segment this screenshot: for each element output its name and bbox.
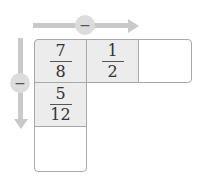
numerator: 7 — [55, 43, 65, 59]
cell-column-2: 5 12 — [34, 82, 87, 127]
minus-operator-horizontal: − — [75, 15, 95, 35]
cell-row-answer[interactable] — [138, 39, 192, 83]
numerator: 1 — [107, 43, 117, 59]
fraction: 7 8 — [50, 43, 72, 80]
cell-start: 7 8 — [34, 39, 87, 83]
fraction: 5 12 — [50, 86, 72, 123]
cell-row-2: 1 2 — [86, 39, 139, 83]
cell-column-answer[interactable] — [34, 126, 87, 172]
arrow-right-icon — [128, 19, 139, 33]
fraction: 1 2 — [102, 43, 124, 80]
minus-operator-vertical: − — [10, 73, 30, 93]
denominator: 12 — [50, 107, 70, 123]
numerator: 5 — [55, 86, 65, 102]
denominator: 2 — [107, 64, 117, 80]
arrow-down-icon — [14, 119, 28, 129]
denominator: 8 — [55, 64, 65, 80]
